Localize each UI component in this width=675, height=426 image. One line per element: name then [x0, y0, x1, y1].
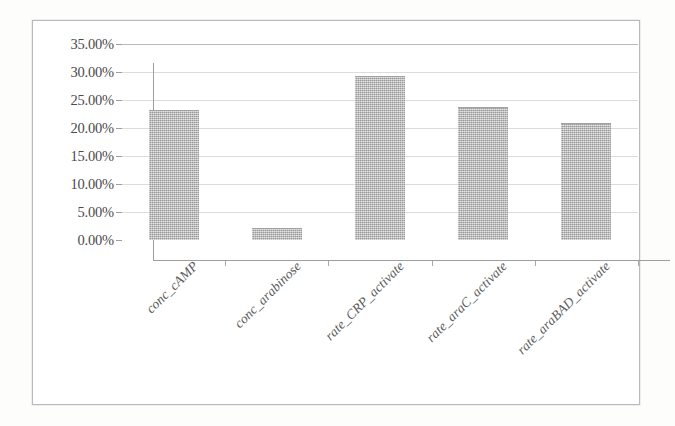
value-axis-tick-label: 10.00% — [30, 177, 114, 192]
category-axis-tick — [432, 261, 433, 266]
category-axis-tick — [328, 261, 329, 266]
value-axis-tick-label: 30.00% — [30, 65, 114, 80]
bar-conc_arabinose — [252, 228, 302, 240]
category-axis-tick — [638, 261, 639, 266]
gridline — [122, 44, 638, 45]
value-axis-tick — [116, 128, 122, 129]
bar-rate_araC_activate — [458, 107, 508, 240]
bar-conc_cAMP — [149, 110, 199, 240]
bar-rate_araBAD_activate — [561, 123, 611, 240]
gridline — [122, 72, 638, 73]
value-axis-tick-label: 15.00% — [30, 149, 114, 164]
value-axis-tick-label: 20.00% — [30, 121, 114, 136]
value-axis-tick — [116, 100, 122, 101]
value-axis-tick — [116, 44, 122, 45]
category-axis-line — [154, 260, 670, 261]
category-axis-tick — [225, 261, 226, 266]
value-axis-tick — [116, 184, 122, 185]
value-axis-tick — [116, 240, 122, 241]
category-axis-tick — [535, 261, 536, 266]
value-axis-tick-label: 25.00% — [30, 93, 114, 108]
value-axis-tick-label: 0.00% — [30, 233, 114, 248]
value-axis-tick — [116, 212, 122, 213]
bar-rate_CRP_activate — [355, 76, 405, 240]
value-axis-tick-label: 35.00% — [30, 37, 114, 52]
chart-frame: 35.00%30.00%25.00%20.00%15.00%10.00%5.00… — [32, 20, 640, 405]
scanned-page-background: 35.00%30.00%25.00%20.00%15.00%10.00%5.00… — [0, 0, 675, 426]
value-axis-tick — [116, 156, 122, 157]
value-axis-tick-label: 5.00% — [30, 205, 114, 220]
value-axis-tick — [116, 72, 122, 73]
